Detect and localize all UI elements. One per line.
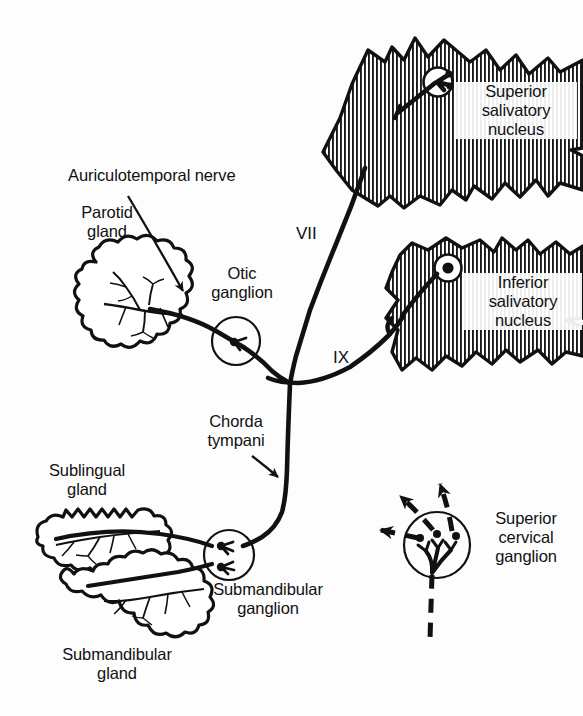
sympathetic-fiber-lateral: [380, 530, 418, 538]
label-otic-ganglion: Otic ganglion: [190, 264, 294, 302]
label-nerve-ix: IX: [333, 348, 349, 368]
label-submandibular-gland: Submandibular gland: [32, 645, 202, 683]
label-nerve-vii: VII: [296, 224, 317, 244]
label-parotid-gland: Parotid gland: [52, 203, 162, 241]
anatomy-figure: Auriculotemporal nerve Parotid gland Oti…: [0, 0, 583, 716]
label-auriculotemporal-nerve: Auriculotemporal nerve: [68, 166, 235, 185]
superior-cervical-ganglion: [380, 484, 470, 640]
parotid-gland: [75, 235, 193, 347]
label-submandibular-ganglion: Submandibular ganglion: [187, 580, 349, 618]
label-inferior-salivatory-nucleus: Inferior salivatory nucleus: [464, 273, 582, 330]
otic-ganglion: [212, 317, 260, 365]
submandibular-ganglion: [204, 530, 254, 580]
label-superior-cervical-ganglion: Superior cervical ganglion: [472, 509, 580, 566]
label-sublingual-gland: Sublingual gland: [24, 461, 150, 499]
chorda-tympani-path: [243, 384, 290, 546]
label-superior-salivatory-nucleus: Superior salivatory nucleus: [455, 82, 577, 139]
label-chorda-tympani: Chorda tympani: [186, 412, 286, 450]
sympathetic-preganglionic-trunk: [430, 575, 432, 640]
otic-to-ix-path: [240, 345, 288, 382]
chorda-tympani-leader-arrow: [252, 456, 278, 477]
sympathetic-fiber-superior: [440, 484, 452, 531]
facial-nerve-vii-path: [290, 168, 365, 384]
